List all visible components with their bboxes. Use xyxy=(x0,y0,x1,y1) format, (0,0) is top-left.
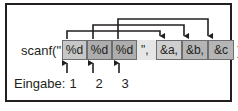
input-value-1: 1 xyxy=(67,76,79,91)
format-specifier-2: %d xyxy=(87,40,112,60)
argument-2: &b, xyxy=(182,40,208,60)
input-label: Eingabe: xyxy=(14,76,65,91)
argument-3: &c xyxy=(208,40,234,60)
argument-1: &a, xyxy=(156,40,182,60)
scanf-prefix: scanf(" xyxy=(20,40,62,60)
input-value-3: 3 xyxy=(119,76,131,91)
format-specifier-3: %d xyxy=(112,40,137,60)
scanf-diagram-figure: scanf(" %d %d %d ", &a, &b, &c ); Eingab… xyxy=(0,0,238,111)
connector-fmt2-to-arg2 xyxy=(93,25,184,39)
connector-fmt1-to-arg1 xyxy=(67,31,160,39)
input-value-2: 2 xyxy=(93,76,105,91)
connector-fmt3-to-arg3 xyxy=(118,19,208,39)
input-row: Eingabe: 1 2 3 xyxy=(14,76,28,111)
scanf-suffix: ); xyxy=(234,40,238,60)
string-close-quote: ", xyxy=(137,40,156,60)
scanf-code-line: scanf(" %d %d %d ", &a, &b, &c ); xyxy=(20,40,238,60)
format-specifier-1: %d xyxy=(62,40,87,60)
